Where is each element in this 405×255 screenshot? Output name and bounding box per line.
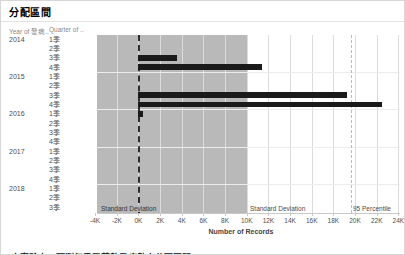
tick-label-22K: 22K: [371, 217, 383, 224]
tick-mark-0K: [138, 213, 139, 216]
bar-2014-4季[interactable]: [138, 64, 261, 70]
std-deviation-label-right: Standard Deviation: [250, 205, 305, 212]
std-deviation-label-left: Standard Deviation: [99, 205, 158, 212]
zero-reference-line: [138, 35, 140, 213]
separator-2015: [97, 72, 400, 73]
tick-label-18K: 18K: [328, 217, 340, 224]
row-quarter-2018-3季: 3季: [49, 203, 60, 212]
row-quarter-2015-4季: 4季: [49, 100, 60, 109]
gridline-16000: [312, 35, 313, 213]
tick-mark-20K: [355, 213, 356, 216]
gridline-18000: [333, 35, 334, 213]
row-quarter-2016-3季: 3季: [49, 128, 60, 137]
percentile-95-line: [351, 35, 352, 213]
row-quarter-2015-3季: 3季: [49, 91, 60, 100]
chart-title: 分配區間: [9, 4, 51, 19]
tick-mark-14K: [290, 213, 291, 216]
gridline-6000: [203, 35, 204, 213]
tick-label-4K: 4K: [178, 217, 186, 224]
separator-2017: [97, 147, 400, 148]
tick-label-16K: 16K: [306, 217, 318, 224]
title-divider: [1, 21, 405, 22]
row-year-2014: 2014: [9, 35, 25, 44]
tick-label-14K: 14K: [284, 217, 296, 224]
gridline-20000: [355, 35, 356, 213]
row-quarter-2017-2季: 2季: [49, 156, 60, 165]
tick-mark-4K: [182, 213, 183, 216]
row-quarter-2018-1季: 1季: [49, 184, 60, 193]
row-year-2016: 2016: [9, 109, 25, 118]
plot-area: [97, 35, 400, 214]
percentile-95-label: 95 Percentile: [353, 205, 391, 212]
tick-label-10K: 10K: [241, 217, 253, 224]
row-quarter-2014-3季: 3季: [49, 53, 60, 62]
tick-label-20K: 20K: [349, 217, 361, 224]
row-quarter-2014-2季: 2季: [49, 44, 60, 53]
tick-mark-22K: [377, 213, 378, 216]
row-quarter-2016-4季: 4季: [49, 137, 60, 146]
row-quarter-2014-4季: 4季: [49, 63, 60, 72]
gridline-22000: [377, 35, 378, 213]
x-axis-title: Number of Records: [161, 228, 321, 235]
row-quarter-2016-2季: 2季: [49, 119, 60, 128]
gridline-2000: [160, 35, 161, 213]
gridline-10000: [247, 35, 248, 213]
tick-mark-6K: [203, 213, 204, 216]
tick-label--4K: -4K: [90, 217, 100, 224]
row-year-2015: 2015: [9, 72, 25, 81]
bar-2015-3季[interactable]: [138, 92, 347, 98]
tick-mark--4K: [95, 213, 96, 216]
clipped-caption-text: 本實驗中，預測每季登革熱發病數之分配區間: [11, 251, 191, 255]
row-quarter-2015-2季: 2季: [49, 81, 60, 90]
row-quarter-2015-1季: 1季: [49, 72, 60, 81]
tick-label-24K: 24K: [393, 217, 405, 224]
row-year-2018: 2018: [9, 184, 25, 193]
tick-label-12K: 12K: [263, 217, 275, 224]
gridline-4000: [182, 35, 183, 213]
row-quarter-2014-1季: 1季: [49, 35, 60, 44]
tick-mark-18K: [333, 213, 334, 216]
row-quarter-2018-2季: 2季: [49, 193, 60, 202]
gridline--2000: [117, 35, 118, 213]
column-header-quarter: Quarter of ..: [49, 26, 84, 33]
separator-2018: [97, 184, 400, 185]
row-quarter-2017-3季: 3季: [49, 165, 60, 174]
gridline-8000: [225, 35, 226, 213]
tick-mark-12K: [268, 213, 269, 216]
gridline-12000: [268, 35, 269, 213]
row-quarter-2017-4季: 4季: [49, 175, 60, 184]
gridline-24000: [398, 35, 399, 213]
tick-label-2K: 2K: [156, 217, 164, 224]
tick-mark--2K: [117, 213, 118, 216]
tick-mark-2K: [160, 213, 161, 216]
separator-2016: [97, 109, 400, 110]
tick-label-6K: 6K: [199, 217, 207, 224]
chart-card: 分配區間 Year of 發病.. Quarter of .. 20141季2季…: [0, 0, 405, 255]
row-quarter-2017-1季: 1季: [49, 147, 60, 156]
tick-label-8K: 8K: [221, 217, 229, 224]
tick-mark-16K: [312, 213, 313, 216]
tick-mark-8K: [225, 213, 226, 216]
tick-mark-10K: [247, 213, 248, 216]
bar-2014-3季[interactable]: [138, 55, 177, 61]
tick-label-0K: 0K: [134, 217, 142, 224]
bar-2016-1季[interactable]: [138, 111, 143, 117]
row-quarter-2016-1季: 1季: [49, 109, 60, 118]
gridline-14000: [290, 35, 291, 213]
row-year-2017: 2017: [9, 147, 25, 156]
tick-mark-24K: [398, 213, 399, 216]
tick-label--2K: -2K: [112, 217, 122, 224]
bar-2015-4季[interactable]: [138, 102, 382, 108]
